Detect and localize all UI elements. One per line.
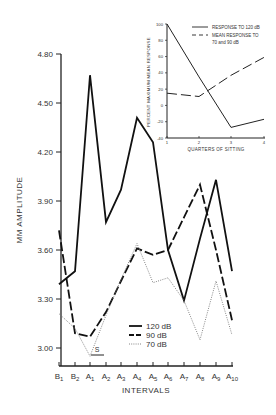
legend-label-90db: 90 dB bbox=[146, 331, 167, 340]
inset-x-tick-label: 1 bbox=[166, 140, 169, 145]
x-tick-label: B2 bbox=[71, 372, 80, 382]
inset-y-tick-label: 20 bbox=[158, 87, 163, 92]
x-tick-label: A4 bbox=[133, 372, 142, 382]
inset-y-tick-label: 80 bbox=[158, 38, 163, 43]
main-y-label: MM AMPLITUDE bbox=[15, 177, 24, 244]
y-tick-label: 4.80 bbox=[37, 50, 53, 59]
inset-x-label: QUARTERS OF SITTING bbox=[187, 147, 244, 152]
x-tick-label: A10 bbox=[226, 372, 239, 382]
inset-y-label: PERCENT MAXIMUM MEAN RESPONSE bbox=[146, 37, 151, 127]
inset-y-ticks: -40-20020406080100 bbox=[156, 22, 167, 141]
x-tick-label: A7 bbox=[180, 372, 189, 382]
inset-x-tick-label: 4 bbox=[263, 140, 266, 145]
inset-legend-label-120db: RESPONSE TO 120 dB bbox=[212, 25, 260, 30]
y-tick-label: 3.60 bbox=[37, 246, 53, 255]
y-tick-label: 3.00 bbox=[37, 344, 53, 353]
inset-y-tick-label: -20 bbox=[157, 119, 164, 124]
inset-x-ticks: 1234 bbox=[166, 136, 266, 145]
y-tick-label: 4.50 bbox=[37, 99, 53, 108]
main-y-ticks: 3.003.303.603.904.204.504.80 bbox=[37, 50, 61, 353]
inset-series-line bbox=[167, 57, 264, 96]
main-x-ticks: B1B2A1A2A3A4A5A6A7A8A9A10 bbox=[55, 362, 239, 382]
inset-x-tick-label: 2 bbox=[198, 140, 201, 145]
main-legend: 120 dB 90 dB 70 dB bbox=[129, 322, 171, 349]
inset-legend: RESPONSE TO 120 dB MEAN RESPONSE TO 70 a… bbox=[192, 25, 260, 45]
scale-marker-label: S bbox=[95, 346, 100, 353]
main-plot: 3.003.303.603.904.204.504.80 B1B2A1A2A3A… bbox=[15, 50, 239, 396]
x-tick-label: A2 bbox=[102, 372, 111, 382]
y-tick-label: 3.30 bbox=[37, 295, 53, 304]
inset-y-tick-label: -40 bbox=[157, 136, 164, 141]
inset-plot: -40-20020406080100 1234 PERCENT MAXIMUM … bbox=[146, 22, 266, 153]
y-tick-label: 4.20 bbox=[37, 148, 53, 157]
inset-legend-label-mean-line2: 70 and 90 dB bbox=[212, 40, 239, 45]
x-tick-label: A8 bbox=[196, 372, 205, 382]
series-line-90db bbox=[59, 185, 232, 337]
main-x-label: INTERVALS bbox=[122, 386, 170, 395]
inset-y-tick-label: 100 bbox=[156, 22, 164, 27]
x-tick-label: A6 bbox=[164, 372, 173, 382]
y-tick-label: 3.90 bbox=[37, 197, 53, 206]
x-tick-label: A1 bbox=[86, 372, 95, 382]
inset-x-tick-label: 3 bbox=[230, 140, 233, 145]
x-tick-label: A9 bbox=[212, 372, 221, 382]
x-tick-label: B1 bbox=[55, 372, 64, 382]
inset-y-tick-label: 60 bbox=[158, 54, 163, 59]
inset-y-tick-label: 40 bbox=[158, 70, 163, 75]
inset-y-tick-label: 0 bbox=[161, 103, 164, 108]
x-tick-label: A5 bbox=[149, 372, 158, 382]
x-tick-label: A3 bbox=[117, 372, 126, 382]
inset-legend-label-mean-line1: MEAN RESPONSE TO bbox=[212, 33, 259, 38]
legend-label-70db: 70 dB bbox=[146, 340, 167, 349]
legend-label-120db: 120 dB bbox=[146, 322, 171, 331]
chart-figure: 3.003.303.603.904.204.504.80 B1B2A1A2A3A… bbox=[0, 0, 276, 415]
